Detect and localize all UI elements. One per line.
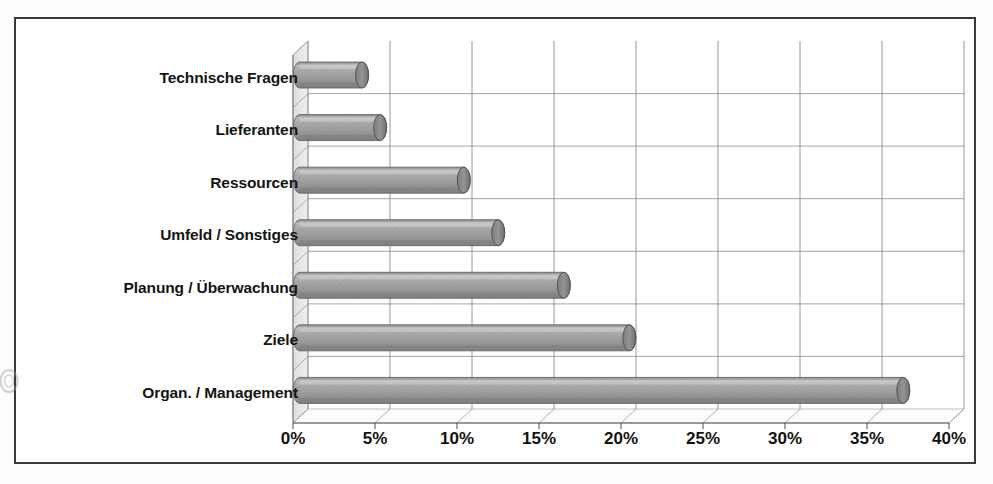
bar-2 [293,167,470,193]
scanned-page: Technische Fragen Lieferanten Ressourcen… [0,0,993,484]
category-label-organ-management: Organ. / Management [26,384,298,402]
category-axis-labels: Technische Fragen Lieferanten Ressourcen… [26,31,298,421]
bar-0 [293,62,368,88]
x-tick-35: 35% [850,429,884,449]
bar-6 [293,377,910,403]
category-label-ziele: Ziele [26,331,298,349]
x-tick-10: 10% [440,429,474,449]
category-label-lieferanten: Lieferanten [26,121,298,139]
x-tick-20: 20% [604,429,638,449]
x-tick-0: 0% [281,429,306,449]
x-axis-tick-labels: 0% 5% 10% 15% 20% 25% 30% 35% 40% [16,429,978,459]
x-tick-30: 30% [768,429,802,449]
bar-3 [293,220,504,246]
bar-5 [293,325,636,351]
bar-1 [293,115,386,141]
x-tick-15: 15% [522,429,556,449]
category-label-umfeld-sonstiges: Umfeld / Sonstiges [26,226,298,244]
chart-frame: Technische Fragen Lieferanten Ressourcen… [14,17,976,464]
category-label-technische-fragen: Technische Fragen [26,69,298,87]
bar-4 [293,272,570,298]
category-label-planung-ueberwachung: Planung / Überwachung [26,279,298,297]
x-tick-25: 25% [686,429,720,449]
category-label-ressourcen: Ressourcen [26,174,298,192]
x-tick-5: 5% [363,429,388,449]
x-tick-40: 40% [932,429,966,449]
